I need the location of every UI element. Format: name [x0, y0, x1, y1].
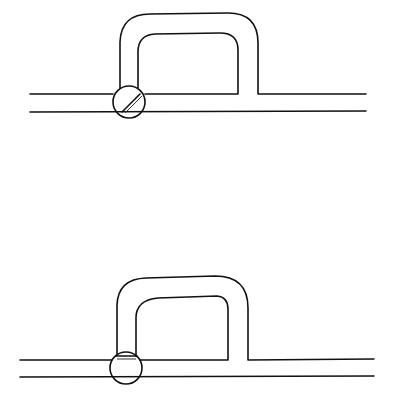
pipe-top-wall-middle	[136, 296, 228, 360]
diagram-canvas	[0, 0, 394, 400]
bottom-bypass-diagram	[20, 276, 374, 384]
pipe-bottom-wall	[30, 111, 366, 112]
bypass-loop-outer	[120, 13, 366, 94]
bypass-loop-outer	[117, 276, 374, 360]
top-bypass-diagram	[30, 13, 366, 118]
pipe-top-wall-middle	[138, 33, 238, 94]
valve-circle-top	[113, 86, 145, 118]
valve-disc-top	[122, 94, 140, 112]
pipe-bottom-wall	[20, 376, 374, 377]
